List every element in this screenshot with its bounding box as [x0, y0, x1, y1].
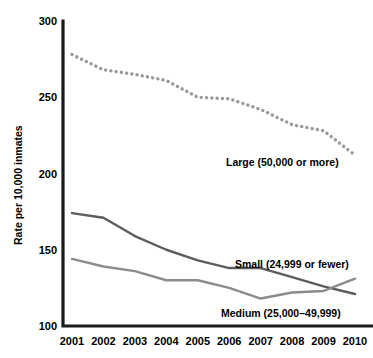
series-label: Medium (25,000–49,999): [221, 307, 341, 319]
x-axis-tick-label: 2008: [280, 335, 304, 347]
y-axis-tick-label: 300: [39, 15, 57, 27]
x-axis-tick-label: 2007: [248, 335, 272, 347]
x-axis-tick-label: 2003: [123, 335, 147, 347]
line-chart: 100150200250300 Rate per 10,000 inmates …: [0, 0, 373, 358]
series-label: Small (24,999 or fewer): [235, 258, 349, 270]
x-axis-tick-label: 2002: [91, 335, 115, 347]
y-axis-title: Rate per 10,000 inmates: [12, 125, 24, 245]
x-axis-tick-label: 2010: [343, 335, 367, 347]
x-axis-tick-label: 2006: [217, 335, 241, 347]
series-label: Large (50,000 or more): [226, 156, 339, 168]
x-axis-tick-label: 2004: [154, 335, 179, 347]
y-axis-tick-label: 100: [39, 320, 57, 332]
y-axis-tick-label: 250: [39, 91, 57, 103]
y-axis-tick-label: 150: [39, 244, 57, 256]
x-axis-tick-label: 2005: [186, 335, 210, 347]
x-axis-tick-label: 2001: [60, 335, 84, 347]
chart-container: 100150200250300 Rate per 10,000 inmates …: [0, 0, 373, 358]
x-axis-tick-label: 2009: [311, 335, 335, 347]
y-axis-tick-label: 200: [39, 168, 57, 180]
